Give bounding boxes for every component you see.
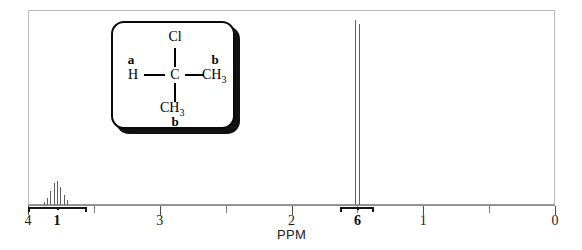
spectrum-plot-area [28, 10, 555, 206]
axis-units-label: PPM [262, 227, 322, 242]
peak-line [54, 183, 55, 206]
peak-line [50, 191, 51, 206]
peak-line [355, 20, 356, 206]
atom-ch3-bottom-text: CH [160, 100, 179, 115]
peak-line [60, 187, 61, 206]
axis-tick-minor [94, 206, 95, 213]
nmr-spectrum-figure: 43210PPM16 Cl H C CH3 CH3 a b b [0, 0, 582, 250]
atom-c-center: C [165, 67, 185, 83]
axis-tick-label: 0 [543, 213, 567, 229]
atom-ch3-right-sub: 3 [221, 74, 226, 85]
integration-center-tick [57, 207, 59, 210]
atom-cl: Cl [163, 29, 187, 45]
peak-line [359, 24, 360, 206]
structure-inset-box: Cl H C CH3 CH3 a b b [111, 21, 235, 129]
bond-c-h [144, 74, 165, 76]
proton-label-a: a [124, 52, 138, 68]
integration-center-tick [357, 207, 359, 210]
peak-line [57, 181, 58, 206]
axis-tick-label: 4 [16, 213, 40, 229]
axis-tick-minor [226, 206, 227, 213]
atom-ch3-right: CH3 [202, 67, 234, 85]
axis-tick-label: 1 [411, 213, 435, 229]
atom-h: H [124, 67, 142, 83]
atom-ch3-right-text: CH [202, 67, 221, 82]
axis-tick-label: 3 [148, 213, 172, 229]
proton-label-b-right: b [208, 52, 222, 68]
bond-c-cl [174, 48, 176, 67]
integration-value: 1 [42, 213, 72, 229]
axis-tick-minor [489, 206, 490, 213]
integration-value: 6 [342, 213, 372, 229]
proton-label-b-bottom: b [168, 114, 182, 130]
